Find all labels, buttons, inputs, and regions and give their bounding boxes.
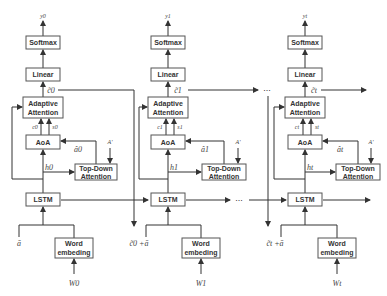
lstm-label: LSTM	[158, 196, 177, 203]
adaptive-label-1: Adaptive	[290, 100, 320, 108]
ellipsis-context: ...	[263, 83, 271, 93]
softmax-label: Softmax	[29, 39, 57, 46]
decoder-diagram: y0 Softmax Linear c̃0 Adaptive Attention…	[0, 0, 387, 296]
a-hat-label: ât	[337, 145, 344, 154]
c-label: ct	[295, 124, 300, 130]
adaptive-label-2: Attention	[28, 109, 59, 116]
lstm-label: LSTM	[33, 196, 52, 203]
softmax-label: Softmax	[291, 39, 319, 46]
aoa-label: AoA	[161, 139, 175, 146]
h-label: ht	[307, 163, 314, 172]
column-0: y0 Softmax Linear c̃0 Adaptive Attention…	[12, 13, 148, 288]
linear-label: Linear	[32, 71, 53, 78]
a-hat-label: â1	[201, 145, 209, 154]
a-prime-label: A'	[368, 139, 375, 145]
adaptive-label-2: Attention	[290, 109, 321, 116]
input-left-label: c̃0 +ā	[130, 239, 149, 248]
softmax-label: Softmax	[154, 39, 182, 46]
lstm-label: LSTM	[295, 196, 314, 203]
word-embed-label-1: Word	[65, 240, 83, 247]
top-down-label-2: Attention	[81, 173, 112, 180]
adaptive-label-1: Adaptive	[28, 100, 58, 108]
top-down-label-1: Top-Down	[341, 165, 375, 173]
column-t: yt Softmax Linear c̃t Adaptive Attention…	[266, 13, 380, 288]
s-label: s1	[177, 124, 182, 130]
h-label: h1	[170, 163, 178, 172]
top-down-label-1: Top-Down	[79, 165, 113, 173]
top-down-label-1: Top-Down	[207, 165, 241, 173]
adaptive-label-1: Adaptive	[153, 100, 183, 108]
word-input-label: W0	[69, 279, 80, 288]
word-embed-label-2: embeding	[320, 249, 353, 257]
h-label: h0	[45, 163, 53, 172]
context-out-label: c̃t	[311, 86, 318, 95]
word-embed-label-1: Word	[328, 240, 346, 247]
word-embed-label-1: Word	[192, 240, 210, 247]
output-yt: yt	[302, 13, 308, 19]
c-label: c0	[32, 124, 38, 130]
c-label: c1	[157, 124, 163, 130]
adaptive-label-2: Attention	[153, 109, 184, 116]
output-y0: y0	[39, 13, 46, 19]
a-prime-label: A'	[107, 139, 114, 145]
linear-label: Linear	[157, 71, 178, 78]
top-down-label-2: Attention	[343, 173, 374, 180]
word-embed-label-2: embeding	[57, 249, 90, 257]
input-left-label: ā	[17, 239, 21, 248]
aoa-label: AoA	[298, 139, 312, 146]
linear-label: Linear	[294, 71, 315, 78]
column-1: y1 Softmax Linear c̃1 Adaptive Attention…	[130, 13, 286, 288]
word-input-label: W1	[196, 279, 207, 288]
context-out-label: c̃1	[174, 86, 182, 95]
s-label: s0	[52, 124, 57, 130]
word-input-label: Wt	[333, 279, 343, 288]
output-y1: y1	[164, 13, 171, 19]
a-prime-label: A'	[235, 139, 242, 145]
top-down-label-2: Attention	[209, 173, 240, 180]
ellipsis-lstm: ...	[235, 193, 243, 203]
word-embed-label-2: embeding	[184, 249, 217, 257]
context-out-label: c̃0	[47, 86, 55, 95]
s-label: st	[315, 124, 319, 130]
a-hat-label: â0	[74, 145, 82, 154]
input-left-label: c̃t +ā	[266, 239, 283, 248]
aoa-label: AoA	[36, 139, 50, 146]
